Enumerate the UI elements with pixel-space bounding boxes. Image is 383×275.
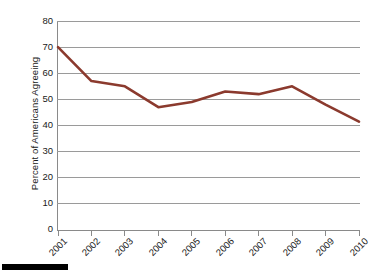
gridline-40	[57, 125, 360, 126]
y-tick-label: 50	[27, 94, 53, 104]
y-tick-label: 30	[27, 146, 53, 156]
gridline-10	[57, 203, 360, 204]
x-tick-mark	[359, 231, 360, 236]
y-tick-label: 60	[27, 68, 53, 78]
x-tick-mark	[292, 231, 293, 236]
gridline-80	[57, 21, 360, 22]
x-tick-mark	[258, 231, 259, 236]
y-tick-label: 20	[27, 172, 53, 182]
y-tick-label: 0	[27, 224, 53, 234]
gridline-20	[57, 177, 360, 178]
x-tick-mark	[158, 231, 159, 236]
gridline-30	[57, 151, 360, 152]
y-tick-label: 80	[27, 16, 53, 26]
y-tick-label: 40	[27, 120, 53, 130]
plot-area	[57, 21, 360, 230]
x-tick-mark	[91, 231, 92, 236]
y-tick-label: 70	[27, 42, 53, 52]
y-tick-label: 10	[27, 198, 53, 208]
x-tick-mark	[124, 231, 125, 236]
x-tick-mark	[325, 231, 326, 236]
x-tick-mark	[191, 231, 192, 236]
line-chart-figure: Percent of Americans Agreeing 80 70 60 5…	[0, 0, 383, 275]
footer-black-bar	[2, 264, 68, 270]
x-tick-mark	[225, 231, 226, 236]
gridline-50	[57, 99, 360, 100]
gridline-70	[57, 47, 360, 48]
x-tick-mark	[58, 231, 59, 236]
gridline-60	[57, 73, 360, 74]
x-axis-line	[57, 230, 360, 231]
